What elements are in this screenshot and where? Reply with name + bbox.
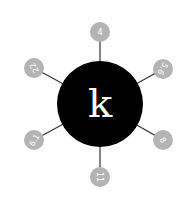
node-lower-right: 8 [153, 130, 173, 150]
node-upper-right: 5.6 [153, 59, 173, 79]
node-label: 11 [95, 172, 104, 182]
node-label: 4 [97, 28, 102, 37]
node-bottom: 11 [90, 167, 110, 187]
star-diagram: k 4 5.6 8 11 6.1 22 [0, 0, 192, 209]
node-lower-left: 6.1 [24, 130, 44, 150]
center-label: k [88, 80, 113, 126]
center-node: k [57, 61, 143, 147]
node-upper-left: 22 [24, 58, 44, 78]
node-top: 4 [90, 22, 110, 42]
